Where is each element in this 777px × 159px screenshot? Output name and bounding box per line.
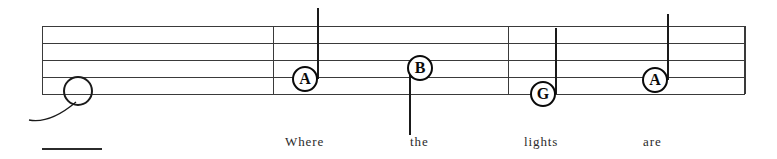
lyric-word-2: the bbox=[410, 134, 429, 150]
note-stem-a-4 bbox=[667, 14, 669, 80]
lyric-word-1: Where bbox=[285, 134, 324, 150]
lyric-word-3: lights bbox=[524, 134, 558, 150]
staff-line-3 bbox=[42, 60, 745, 61]
staff-line-1 bbox=[42, 26, 745, 27]
lyric-word-4: are bbox=[643, 134, 662, 150]
staff-line-5 bbox=[42, 94, 745, 95]
underline-mark bbox=[42, 148, 102, 150]
barline-1 bbox=[273, 26, 274, 94]
note-stem-b-2 bbox=[409, 68, 411, 135]
staff-line-4 bbox=[42, 77, 745, 78]
circled-note-g-3: G bbox=[530, 81, 556, 107]
whole-note-curved-tail bbox=[28, 100, 98, 130]
circled-note-a-1: A bbox=[292, 66, 318, 92]
circled-note-b-2: B bbox=[407, 55, 433, 81]
staff-line-2 bbox=[42, 43, 745, 44]
note-stem-a-1 bbox=[317, 8, 319, 79]
note-stem-g-3 bbox=[555, 28, 557, 94]
circled-note-a-4: A bbox=[642, 67, 668, 93]
music-sheet-staff-image: ABGA Wherethelightsare bbox=[0, 0, 777, 159]
opening-barline bbox=[42, 26, 43, 94]
closing-barline bbox=[744, 26, 746, 94]
barline-2 bbox=[508, 26, 509, 94]
